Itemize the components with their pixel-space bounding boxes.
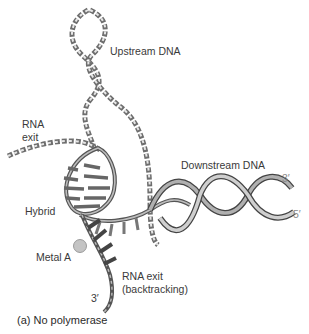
label-downstream-dna: Downstream DNA [181, 159, 265, 171]
label-five-prime: 5′ [293, 208, 301, 220]
label-rna-exit-backtracking-line2: (backtracking) [122, 283, 188, 295]
label-metal-a: Metal A [36, 251, 71, 263]
metal-a-ion [74, 240, 87, 253]
downstream-dna-helix [150, 176, 294, 230]
label-rna-exit-line1: RNA [22, 118, 44, 130]
label-rna-exit-line2: exit [22, 131, 38, 143]
label-rna-exit-backtracking-line1: RNA exit [122, 270, 163, 282]
label-upstream-dna: Upstream DNA [110, 45, 181, 57]
figure-caption: (a) No polymerase [17, 314, 107, 326]
label-three-prime-bottom: 3′ [91, 292, 99, 304]
label-three-prime-top: 3′ [282, 172, 290, 184]
label-hybrid: Hybrid [25, 205, 55, 217]
hybrid-helix [64, 148, 115, 214]
